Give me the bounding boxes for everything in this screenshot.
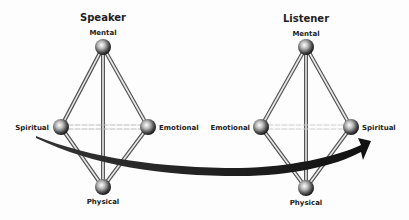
speaker-node-mental	[95, 39, 111, 55]
listener-node-spiritual	[343, 119, 359, 135]
listener-title: Listener	[283, 13, 329, 24]
speaker-node-physical	[95, 179, 111, 195]
speaker-label-bottom: Physical	[87, 198, 120, 206]
speaker-label-left: Spiritual	[15, 124, 49, 132]
listener-node-physical	[298, 180, 314, 196]
diagram-canvas: Speaker Mental Spiritual Emotional Physi…	[0, 0, 409, 220]
listener-label-bottom: Physical	[290, 199, 323, 207]
speaker-node-emotional	[140, 119, 156, 135]
speaker-label-top: Mental	[89, 29, 116, 37]
listener-node-emotional	[253, 119, 269, 135]
speaker-node-spiritual	[53, 119, 69, 135]
listener-label-top: Mental	[292, 30, 319, 38]
speaker-label-right: Emotional	[159, 124, 199, 132]
listener-label-left: Emotional	[210, 124, 250, 132]
listener-label-right: Spiritual	[362, 124, 396, 132]
listener-node-mental	[298, 39, 314, 55]
speaker-title: Speaker	[80, 12, 126, 23]
